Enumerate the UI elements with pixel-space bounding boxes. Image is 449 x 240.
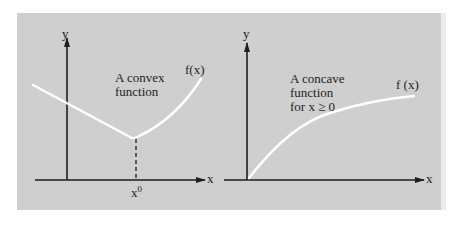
left-function-label: f(x) [185, 63, 205, 77]
right-x-axis-label: x [426, 172, 433, 186]
right-caption-line1: A concave [290, 72, 345, 86]
left-x-axis-label: x [207, 172, 214, 186]
x0-label: x0 [131, 182, 142, 200]
x0-label-sup: 0 [138, 184, 143, 194]
left-convex-plot [33, 38, 205, 180]
left-caption-line1: A convex [115, 71, 164, 85]
right-function-label: f (x) [396, 78, 419, 92]
left-y-axis-label: y [62, 27, 69, 41]
right-caption-line2: function [290, 86, 333, 100]
right-caption-line3: for x ≥ 0 [290, 100, 335, 114]
left-caption-line2: function [115, 85, 158, 99]
right-y-axis-label: y [243, 27, 250, 41]
